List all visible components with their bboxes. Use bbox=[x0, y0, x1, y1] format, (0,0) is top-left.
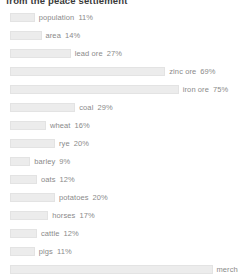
bar-label-value: 11% bbox=[78, 13, 93, 22]
bar-label: wheat16% bbox=[50, 119, 90, 132]
bar bbox=[10, 211, 48, 220]
bar-label-value: 69% bbox=[200, 67, 215, 76]
bar-row: coal29% bbox=[0, 101, 238, 119]
bar-label-name: horses bbox=[52, 211, 75, 220]
bar-row: oats12% bbox=[0, 173, 238, 191]
bar-track bbox=[10, 49, 235, 58]
bar-label: horses17% bbox=[52, 209, 94, 222]
bar-track bbox=[10, 193, 235, 202]
bar-label-name: rye bbox=[59, 139, 70, 148]
bar-label-name: lead ore bbox=[75, 49, 103, 58]
bar bbox=[10, 157, 30, 166]
bar-label-value: 27% bbox=[107, 49, 122, 58]
bar-chart: population11%area14%lead ore27%zinc ore6… bbox=[0, 11, 238, 277]
bar-label: pigs11% bbox=[39, 245, 72, 258]
bar-row: lead ore27% bbox=[0, 47, 238, 65]
bar-label-name: area bbox=[46, 31, 61, 40]
bar bbox=[10, 175, 37, 184]
bar-label-value: 75% bbox=[213, 85, 228, 94]
bar-row: horses17% bbox=[0, 209, 238, 227]
bar-label-name: merchant fleet bbox=[217, 265, 239, 274]
bar-track bbox=[10, 103, 235, 112]
bar-label-name: oats bbox=[41, 175, 56, 184]
bar bbox=[10, 67, 165, 76]
bar bbox=[10, 121, 46, 130]
bar-label-value: 20% bbox=[74, 139, 89, 148]
bar-label-value: 12% bbox=[60, 175, 75, 184]
bar-label-value: 16% bbox=[75, 121, 90, 130]
bar-label: rye20% bbox=[59, 137, 89, 150]
bar bbox=[10, 193, 55, 202]
bar-track bbox=[10, 31, 235, 40]
bar-label: oats12% bbox=[41, 173, 75, 186]
bar-label: merchant fleet90% bbox=[217, 263, 239, 276]
bar bbox=[10, 31, 42, 40]
bar-row: potatoes20% bbox=[0, 191, 238, 209]
bar-row: iron ore75% bbox=[0, 83, 238, 101]
bar-row: area14% bbox=[0, 29, 238, 47]
bar-label-value: 17% bbox=[79, 211, 94, 220]
bar-label-name: potatoes bbox=[59, 193, 89, 202]
bar-label-name: barley bbox=[34, 157, 55, 166]
bar-label-name: wheat bbox=[50, 121, 71, 130]
bar-row: wheat16% bbox=[0, 119, 238, 137]
bar-label: coal29% bbox=[79, 101, 112, 114]
bar-row: merchant fleet90% bbox=[0, 263, 238, 277]
bar-label: area14% bbox=[46, 29, 81, 42]
bar-track bbox=[10, 139, 235, 148]
bar bbox=[10, 13, 35, 22]
bar-label-value: 11% bbox=[57, 247, 72, 256]
bar-row: pigs11% bbox=[0, 245, 238, 263]
bar-label-value: 20% bbox=[93, 193, 108, 202]
bar-label: population11% bbox=[39, 11, 93, 24]
bar-track bbox=[10, 265, 235, 274]
bar-label: cattle12% bbox=[41, 227, 79, 240]
bar-track bbox=[10, 121, 235, 130]
chart-page: from the peace settlement population11%a… bbox=[0, 0, 238, 277]
bar-label: iron ore75% bbox=[183, 83, 229, 96]
bar bbox=[10, 85, 179, 94]
bar-label-name: zinc ore bbox=[169, 67, 196, 76]
bar-label-name: iron ore bbox=[183, 85, 209, 94]
bar-label-name: population bbox=[39, 13, 75, 22]
bar bbox=[10, 265, 213, 274]
bar-track bbox=[10, 211, 235, 220]
bar-label-value: 12% bbox=[64, 229, 79, 238]
bar-label-name: coal bbox=[79, 103, 93, 112]
bar-label: lead ore27% bbox=[75, 47, 122, 60]
bar-label-value: 14% bbox=[65, 31, 80, 40]
bar bbox=[10, 103, 75, 112]
bar-row: rye20% bbox=[0, 137, 238, 155]
bar bbox=[10, 139, 55, 148]
bar-row: zinc ore69% bbox=[0, 65, 238, 83]
bar bbox=[10, 49, 71, 58]
page-title: from the peace settlement bbox=[6, 0, 127, 6]
bar-label: zinc ore69% bbox=[169, 65, 215, 78]
bar-label-name: pigs bbox=[39, 247, 53, 256]
bar-row: population11% bbox=[0, 11, 238, 29]
bar bbox=[10, 229, 37, 238]
bar-row: cattle12% bbox=[0, 227, 238, 245]
bar bbox=[10, 247, 35, 256]
bar-label-value: 9% bbox=[59, 157, 70, 166]
bar-label: barley9% bbox=[34, 155, 70, 168]
bar-label-name: cattle bbox=[41, 229, 60, 238]
bar-label: potatoes20% bbox=[59, 191, 108, 204]
bar-label-value: 29% bbox=[97, 103, 112, 112]
bar-row: barley9% bbox=[0, 155, 238, 173]
